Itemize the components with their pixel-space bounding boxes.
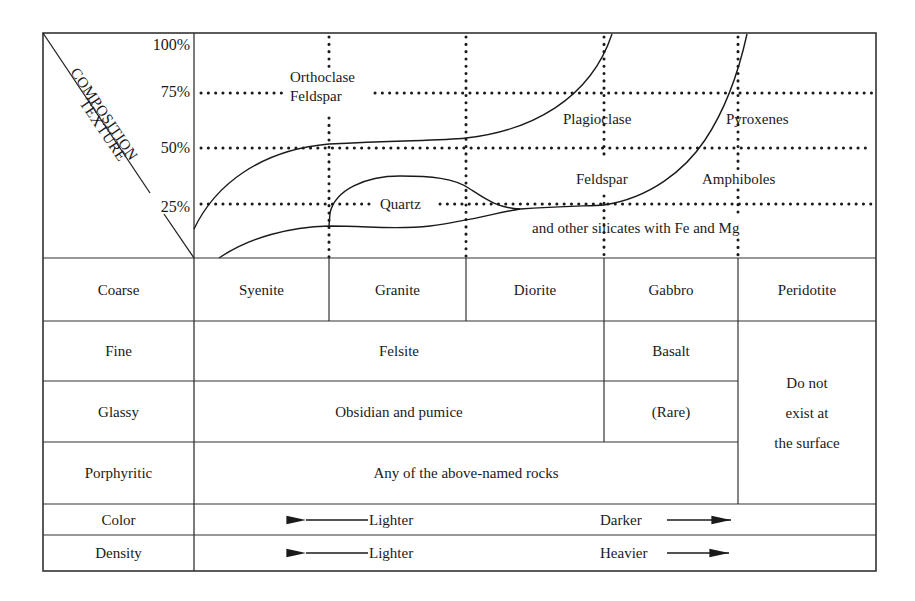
other-silicates-label: and other silicates with Fe and Mg bbox=[532, 220, 740, 236]
density-lighter-label: Lighter bbox=[369, 535, 435, 571]
density-heavier-label: Heavier bbox=[600, 535, 666, 571]
cell-felsite: Felsite bbox=[194, 321, 604, 381]
row-label-coarse: Coarse bbox=[43, 258, 194, 321]
row-label-glassy: Glassy bbox=[43, 381, 194, 442]
orthoclase-feldspar-label: Feldspar bbox=[290, 88, 342, 104]
amphiboles-label: Amphiboles bbox=[702, 171, 775, 187]
igneous-rock-chart: COMPOSITION TEXTURE 100% 75% 50% 25% bbox=[0, 0, 915, 601]
plagioclase-label: Plagioclase bbox=[563, 111, 632, 127]
cell-gabbro: Gabbro bbox=[604, 258, 738, 321]
orthoclase-label: Orthoclase bbox=[290, 69, 355, 85]
cell-granite: Granite bbox=[329, 258, 466, 321]
tick-50: 50% bbox=[161, 139, 190, 156]
row-label-color: Color bbox=[43, 504, 194, 535]
color-darker-label: Darker bbox=[600, 504, 662, 535]
tick-75: 75% bbox=[161, 83, 190, 100]
cell-peridotite-note: Do not exist at the surface bbox=[738, 321, 876, 504]
composition-axis-label: COMPOSITION bbox=[68, 65, 142, 163]
row-label-density: Density bbox=[43, 535, 194, 571]
quartz-upper-curve bbox=[329, 176, 520, 226]
cell-syenite: Syenite bbox=[194, 258, 329, 321]
color-lighter-label: Lighter bbox=[369, 504, 435, 535]
quartz-label: Quartz bbox=[380, 196, 421, 212]
cell-obsidian-pumice: Obsidian and pumice bbox=[194, 381, 604, 442]
cell-basalt: Basalt bbox=[604, 321, 738, 381]
cell-diorite: Diorite bbox=[466, 258, 604, 321]
row-label-porphyritic: Porphyritic bbox=[43, 442, 194, 504]
row-label-fine: Fine bbox=[43, 321, 194, 381]
tick-100: 100% bbox=[153, 36, 190, 53]
cell-porphyritic-any: Any of the above-named rocks bbox=[194, 442, 738, 504]
plagioclase-feldspar-label: Feldspar bbox=[576, 171, 628, 187]
cell-peridotite: Peridotite bbox=[738, 258, 876, 321]
tick-25: 25% bbox=[161, 198, 190, 215]
cell-rare: (Rare) bbox=[604, 381, 738, 442]
pyroxenes-label: Pyroxenes bbox=[726, 111, 789, 127]
